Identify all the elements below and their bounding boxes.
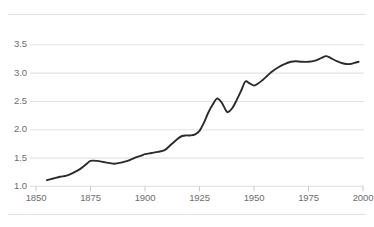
x-axis-tick-label: 1850 <box>19 192 53 203</box>
series-line <box>47 56 359 180</box>
y-axis-tick-label: 2.5 <box>5 95 27 106</box>
x-axis-tick-label: 1900 <box>128 192 162 203</box>
x-axis-tick-label: 1925 <box>183 192 217 203</box>
x-axis-ticks <box>36 186 363 191</box>
y-axis-tick-label: 2.0 <box>5 123 27 134</box>
x-axis-tick-label: 2000 <box>346 192 374 203</box>
y-axis-tick-label: 3.0 <box>5 67 27 78</box>
data-series-layer <box>47 56 359 180</box>
x-axis-tick-label: 1975 <box>292 192 326 203</box>
line-chart-figure: 1.01.52.02.53.03.5 185018751900192519501… <box>0 0 374 227</box>
y-axis-tick-label: 3.5 <box>5 38 27 49</box>
x-axis-tick-label: 1950 <box>237 192 271 203</box>
y-axis-tick-label: 1.5 <box>5 152 27 163</box>
y-axis-tick-label: 1.0 <box>5 180 27 191</box>
x-axis-tick-label: 1875 <box>74 192 108 203</box>
horizontal-gridlines <box>30 45 364 187</box>
